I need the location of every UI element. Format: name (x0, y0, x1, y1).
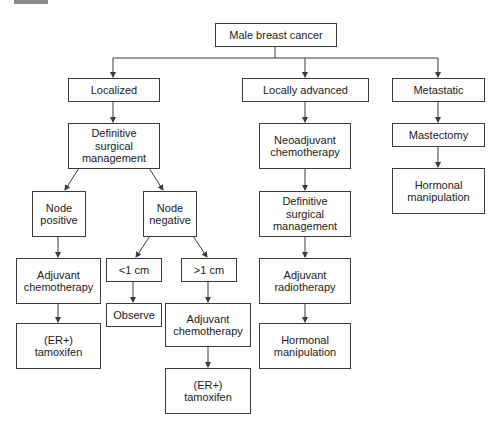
node-label: Adjuvant radiotherapy (274, 269, 335, 294)
node-label: Locally advanced (263, 84, 348, 97)
node-label: >1 cm (194, 264, 224, 277)
node-hormonal-manipulation-advanced: Hormonal manipulation (259, 323, 351, 369)
node-label: (ER+) tamoxifen (184, 379, 232, 404)
node-label: Node negative (149, 202, 191, 227)
node-hormonal-manipulation-metastatic: Hormonal manipulation (392, 168, 485, 214)
node-label: Hormonal manipulation (407, 179, 469, 204)
node-metastatic: Metastatic (392, 78, 485, 102)
node-tamoxifen-positive: (ER+) tamoxifen (16, 323, 101, 369)
node-label: Observe (113, 309, 155, 322)
node-neoadjuvant-chemotherapy: Neoadjuvant chemotherapy (259, 123, 351, 169)
node-tamoxifen-negative: (ER+) tamoxifen (165, 368, 251, 414)
node-greater-than-1cm: >1 cm (181, 258, 237, 282)
node-adjuvant-radiotherapy: Adjuvant radiotherapy (259, 258, 351, 304)
node-definitive-surgical-management-localized: Definitive surgical management (68, 123, 160, 169)
node-label: Mastectomy (409, 129, 468, 142)
node-label: Male breast cancer (229, 29, 323, 42)
node-male-breast-cancer: Male breast cancer (215, 23, 337, 47)
node-label: Adjuvant chemotherapy (24, 269, 94, 294)
node-label: <1 cm (119, 264, 149, 277)
node-locally-advanced: Locally advanced (242, 78, 369, 102)
node-label: Hormonal manipulation (274, 334, 336, 359)
node-adjuvant-chemotherapy-negative: Adjuvant chemotherapy (165, 303, 251, 347)
node-label: Definitive surgical management (273, 195, 337, 233)
node-label: Neoadjuvant chemotherapy (270, 134, 340, 159)
node-adjuvant-chemotherapy-positive: Adjuvant chemotherapy (16, 258, 101, 304)
node-label: (ER+) tamoxifen (35, 334, 83, 359)
node-label: Definitive surgical management (82, 127, 146, 165)
node-label: Adjuvant chemotherapy (173, 313, 243, 338)
node-less-than-1cm: <1 cm (106, 258, 162, 282)
node-node-negative: Node negative (143, 191, 197, 237)
node-label: Metastatic (413, 84, 463, 97)
node-localized: Localized (68, 78, 160, 102)
node-label: Localized (91, 84, 137, 97)
node-definitive-surgical-management-advanced: Definitive surgical management (259, 191, 351, 237)
node-label: Node positive (40, 202, 77, 227)
node-observe: Observe (106, 303, 162, 327)
node-mastectomy: Mastectomy (392, 123, 485, 147)
node-node-positive: Node positive (32, 191, 86, 237)
